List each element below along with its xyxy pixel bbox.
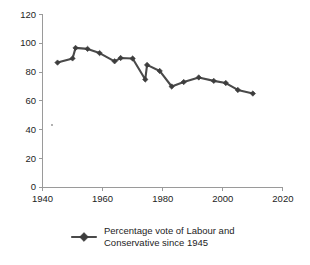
x-tick-label-1960: 1960	[92, 193, 113, 204]
chart-container: 120 100 80 60 40 20 0 1940 1960 1980 200…	[0, 0, 310, 265]
y-tick-label-60: 60	[25, 95, 36, 106]
line-chart: 120 100 80 60 40 20 0 1940 1960 1980 200…	[0, 0, 310, 265]
data-point	[211, 78, 216, 83]
y-tick-label-40: 40	[25, 124, 36, 135]
data-point	[70, 56, 75, 61]
data-point	[73, 45, 78, 50]
scan-speck	[51, 124, 53, 126]
x-tick-label-1940: 1940	[32, 193, 53, 204]
y-tick-label-20: 20	[25, 153, 36, 164]
y-tick-label-120: 120	[20, 9, 36, 20]
x-tick-label-2000: 2000	[212, 193, 233, 204]
x-tick-label-2020: 2020	[272, 193, 293, 204]
y-tick-label-100: 100	[20, 37, 36, 48]
x-tick-label-1980: 1980	[152, 193, 173, 204]
legend-label-line2: Conservative since 1945	[104, 237, 208, 248]
data-point	[196, 75, 201, 80]
y-tick-label-0: 0	[31, 181, 36, 192]
series-marker-group	[55, 45, 256, 96]
series-line-labour-conservative	[58, 48, 253, 94]
data-point	[55, 60, 60, 65]
y-tick-label-80: 80	[25, 66, 36, 77]
legend-diamond-icon	[80, 233, 89, 242]
data-point	[250, 91, 255, 96]
data-point	[85, 46, 90, 51]
legend-label-line1: Percentage vote of Labour and	[104, 225, 234, 236]
data-point	[181, 79, 186, 84]
